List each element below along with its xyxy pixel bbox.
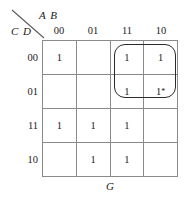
cell-value: 1 xyxy=(124,154,129,165)
cell-value: 1 xyxy=(124,52,129,63)
side-variables-label: C D xyxy=(11,25,32,37)
kmap-cell[interactable]: 1 xyxy=(77,109,111,143)
cell-value: 1 xyxy=(158,52,163,63)
cell-value: 1 xyxy=(91,154,96,165)
kmap-grid: 1 1 1 1 1* 1 1 1 1 1 xyxy=(42,40,178,177)
cell-value: 1 xyxy=(156,86,161,97)
kmap-cell[interactable]: 1* xyxy=(144,75,178,109)
kmap-cell[interactable]: 1 xyxy=(77,143,111,177)
column-header-3: 10 xyxy=(144,22,178,39)
cell-value: 1 xyxy=(124,86,129,97)
kmap-cell[interactable]: 1 xyxy=(144,41,178,75)
column-header-0: 00 xyxy=(42,22,76,39)
kmap-cell[interactable]: 1 xyxy=(43,41,77,75)
row-headers: 00 01 11 10 xyxy=(14,40,40,177)
column-headers: 00 01 11 10 xyxy=(42,22,178,39)
cell-value: 1 xyxy=(57,52,62,63)
kmap-cell[interactable]: 1 xyxy=(111,75,145,109)
row-header-1: 01 xyxy=(14,74,40,108)
kmap-cell[interactable]: 1 xyxy=(111,143,145,177)
cell-value: 1 xyxy=(57,120,62,131)
kmap-cell[interactable] xyxy=(144,143,178,177)
karnaugh-map: A B C D 00 01 11 10 00 01 11 10 1 1 1 1 … xyxy=(0,0,188,204)
row-header-3: 10 xyxy=(14,143,40,177)
kmap-cell[interactable]: 1 xyxy=(111,41,145,75)
kmap-cell[interactable] xyxy=(77,41,111,75)
kmap-cell[interactable]: 1 xyxy=(111,109,145,143)
column-header-2: 11 xyxy=(110,22,144,39)
cell-value: 1 xyxy=(91,120,96,131)
kmap-cell[interactable] xyxy=(77,75,111,109)
row-header-2: 11 xyxy=(14,109,40,143)
kmap-cell[interactable] xyxy=(144,109,178,143)
kmap-cell[interactable] xyxy=(43,75,77,109)
kmap-cell[interactable]: 1 xyxy=(43,109,77,143)
row-header-0: 00 xyxy=(14,40,40,74)
column-header-1: 01 xyxy=(76,22,110,39)
top-variables-label: A B xyxy=(39,9,58,21)
output-function-label: G xyxy=(42,180,178,192)
kmap-cell[interactable] xyxy=(43,143,77,177)
cell-value: 1 xyxy=(124,120,129,131)
